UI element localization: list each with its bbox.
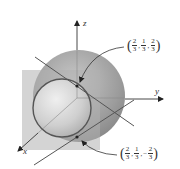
upper-point — [75, 84, 78, 87]
coord-z: 23 — [151, 38, 156, 53]
minus-sign: − — [143, 150, 147, 158]
x-axis-label: x — [22, 146, 27, 156]
coord-y: 13 — [141, 38, 146, 53]
lower-point — [75, 135, 78, 138]
coord-x: 23 — [132, 38, 137, 53]
z-axis-label: z — [82, 18, 87, 28]
coord-x: 23 — [125, 146, 130, 161]
coord-z: 23 — [148, 146, 153, 161]
coord-y: 13 — [134, 146, 139, 161]
y-axis-label: y — [154, 86, 159, 96]
lower-point-label: ( 23 , 13 , − 23 ) — [120, 146, 158, 161]
upper-point-label: ( 23 , 13 , 23 ) — [127, 38, 160, 53]
sphere-plane-diagram: z y x — [0, 0, 180, 169]
